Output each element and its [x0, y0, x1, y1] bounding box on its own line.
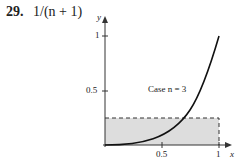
x-tick-05: 0.5 [156, 149, 167, 159]
y-axis-label: y [97, 12, 101, 22]
y-tick-1: 1 [95, 30, 100, 40]
case-annotation: Case n = 3 [148, 84, 186, 94]
y-tick-05: 0.5 [86, 85, 97, 95]
chart-plot [0, 0, 237, 163]
x-axis-label: x [230, 149, 234, 159]
x-tick-1: 1 [216, 149, 221, 159]
